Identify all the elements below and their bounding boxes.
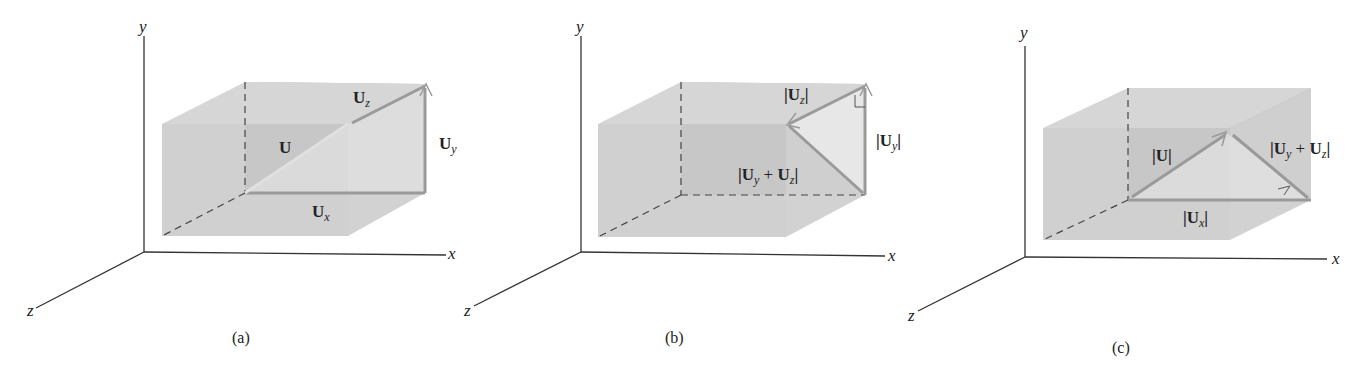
x-axis-label: x bbox=[448, 245, 456, 262]
panel-b-caption: (b) bbox=[665, 330, 684, 346]
panel-c-drawing bbox=[900, 0, 1360, 382]
z-axis-label: z bbox=[27, 302, 34, 319]
vector-uy-label: Uy bbox=[439, 135, 457, 155]
panel-b-drawing bbox=[460, 0, 910, 382]
uz-magnitude-label: |Uz| bbox=[784, 86, 808, 106]
vector-u-label: U bbox=[279, 139, 291, 156]
ux-magnitude-label: |Ux| bbox=[1183, 209, 1208, 229]
u-magnitude-label: |U| bbox=[1152, 147, 1172, 164]
y-axis-label: y bbox=[1020, 24, 1028, 41]
x-axis bbox=[581, 252, 885, 256]
z-axis bbox=[918, 257, 1025, 311]
y-axis-label: y bbox=[576, 18, 584, 35]
x-axis bbox=[144, 252, 446, 255]
x-axis bbox=[1025, 257, 1327, 259]
panel-a-drawing bbox=[0, 0, 460, 382]
z-axis-label: z bbox=[908, 307, 915, 324]
z-axis-label: z bbox=[464, 302, 471, 319]
uy-magnitude-label: |Uy| bbox=[876, 132, 901, 152]
panel-a: y x z U Uz Uy Ux (a) bbox=[0, 0, 460, 382]
panel-a-caption: (a) bbox=[232, 330, 250, 346]
vector-uz-label: Uz bbox=[353, 89, 370, 109]
vector-ux-label: Ux bbox=[312, 203, 330, 223]
panel-c-caption: (c) bbox=[1112, 340, 1130, 356]
y-axis-label: y bbox=[139, 18, 147, 35]
panel-c: y x z |U| |Uy + Uz| |Ux| (c) bbox=[900, 0, 1360, 382]
panel-b: y x z |Uz| |Uy| |Uy + Uz| (b) bbox=[460, 0, 910, 382]
x-axis-label: x bbox=[888, 247, 896, 264]
x-axis-label: x bbox=[1332, 250, 1340, 267]
uyz-magnitude-label: |Uy + Uz| bbox=[1270, 140, 1330, 160]
uyz-magnitude-label: |Uy + Uz| bbox=[738, 166, 798, 186]
z-axis bbox=[36, 252, 144, 308]
z-axis bbox=[474, 252, 581, 306]
